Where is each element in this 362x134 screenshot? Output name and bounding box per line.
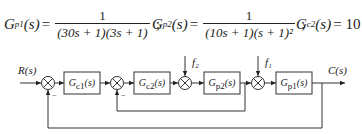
inner-feedback-sign: − [121, 91, 126, 100]
disturbance-f1-label: f₁ [265, 56, 272, 68]
block-gc2-label: Gc2(s) [134, 72, 170, 94]
disturbance-f2-label: f₂ [192, 56, 199, 68]
summing-junction-4 [252, 77, 265, 90]
block-gp2-label: Gp2(s) [204, 72, 240, 94]
block-gc1-label: Gc1(s) [64, 72, 100, 94]
output-label: C(s) [328, 64, 347, 76]
block-gp1-label: Gp1(s) [276, 72, 312, 94]
block-diagram: − − [0, 0, 362, 134]
summing-junction-3 [179, 77, 192, 90]
summing-junction-2 [111, 77, 124, 90]
input-label: R(s) [18, 64, 36, 76]
outer-feedback-sign: − [52, 91, 57, 100]
summing-junction-1 [42, 77, 55, 90]
